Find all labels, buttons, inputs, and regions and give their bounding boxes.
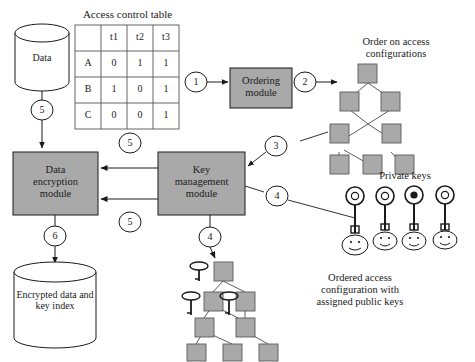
key-management-line3: module (186, 188, 218, 199)
public-key-icon (190, 262, 208, 281)
ordered-caption-line2: configuration with (321, 284, 399, 295)
step-number-6: 6 (44, 230, 66, 241)
ordered-config-caption: Ordered access configuration with assign… (285, 272, 435, 307)
key-management-line2: management (175, 176, 229, 187)
ordered-caption-line3: assigned public keys (317, 296, 404, 307)
data-store-label: Data (15, 52, 69, 63)
encrypted-store-label: Encrypted data and key index (16, 289, 94, 311)
data-encryption-line2: encryption (33, 176, 78, 187)
table-cell-a-t1: 0 (101, 57, 127, 68)
data-encryption-line1: Data (46, 164, 66, 175)
order-tree-top (330, 64, 414, 174)
private-keys-caption: Private keys (360, 170, 450, 182)
order-caption-line1: Order on access (362, 36, 429, 47)
private-key-icon (402, 186, 426, 250)
private-keys-group (342, 186, 457, 255)
ordering-module-line2: module (245, 87, 277, 98)
table-header-t3: t3 (153, 31, 179, 42)
table-cell-c-t3: 1 (153, 109, 179, 120)
key-management-module-label: Key management module (158, 164, 245, 199)
table-cell-c-t2: 0 (127, 109, 153, 120)
diagram-canvas: Access control table t1 t2 t3 A 0 1 1 B … (0, 0, 475, 362)
table-cell-c-t1: 0 (101, 109, 127, 120)
flow-data-to-encryption (31, 91, 53, 148)
step-number-4-keys: 4 (266, 190, 288, 201)
table-cell-b-t3: 1 (153, 83, 179, 94)
order-caption-line2: configurations (366, 48, 427, 59)
table-header-t1: t1 (101, 31, 127, 42)
table-cell-b-t1: 1 (101, 83, 127, 94)
step-number-1: 1 (185, 76, 207, 87)
ordered-config-tree-bottom (182, 262, 278, 361)
step-number-4-tree: 4 (199, 231, 221, 242)
data-encryption-module-label: Data encryption module (13, 164, 98, 199)
step-number-5-bottom: 5 (119, 216, 141, 227)
table-row-label-c: C (75, 109, 101, 120)
ordering-module-label: Ordering module (230, 75, 292, 99)
order-on-access-caption: Order on access configurations (330, 36, 462, 60)
flow-step3-tree-to-keymgmt (248, 132, 328, 166)
private-key-icon (433, 186, 457, 249)
data-encryption-line3: module (40, 188, 72, 199)
table-cell-a-t2: 1 (127, 57, 153, 68)
table-cell-b-t2: 0 (127, 83, 153, 94)
table-header-t2: t2 (127, 31, 153, 42)
table-row-label-b: B (75, 83, 101, 94)
step-number-2: 2 (294, 76, 316, 87)
access-control-table-title: Access control table (60, 8, 195, 20)
key-management-line1: Key (193, 164, 211, 175)
private-key-icon (342, 187, 368, 255)
step-number-5-top: 5 (119, 137, 141, 148)
table-cell-a-t3: 1 (153, 57, 179, 68)
flow-step4-keymgmt-to-private-keys (245, 186, 355, 218)
table-row-label-a: A (75, 57, 101, 68)
step-number-5-data: 5 (31, 104, 53, 115)
step-number-3: 3 (265, 140, 287, 151)
public-key-icon (182, 292, 200, 315)
private-key-icon (373, 187, 397, 250)
encrypted-store-text: Encrypted data and key index (16, 289, 93, 311)
ordering-module-line1: Ordering (242, 75, 280, 86)
ordered-caption-line1: Ordered access (328, 272, 392, 283)
